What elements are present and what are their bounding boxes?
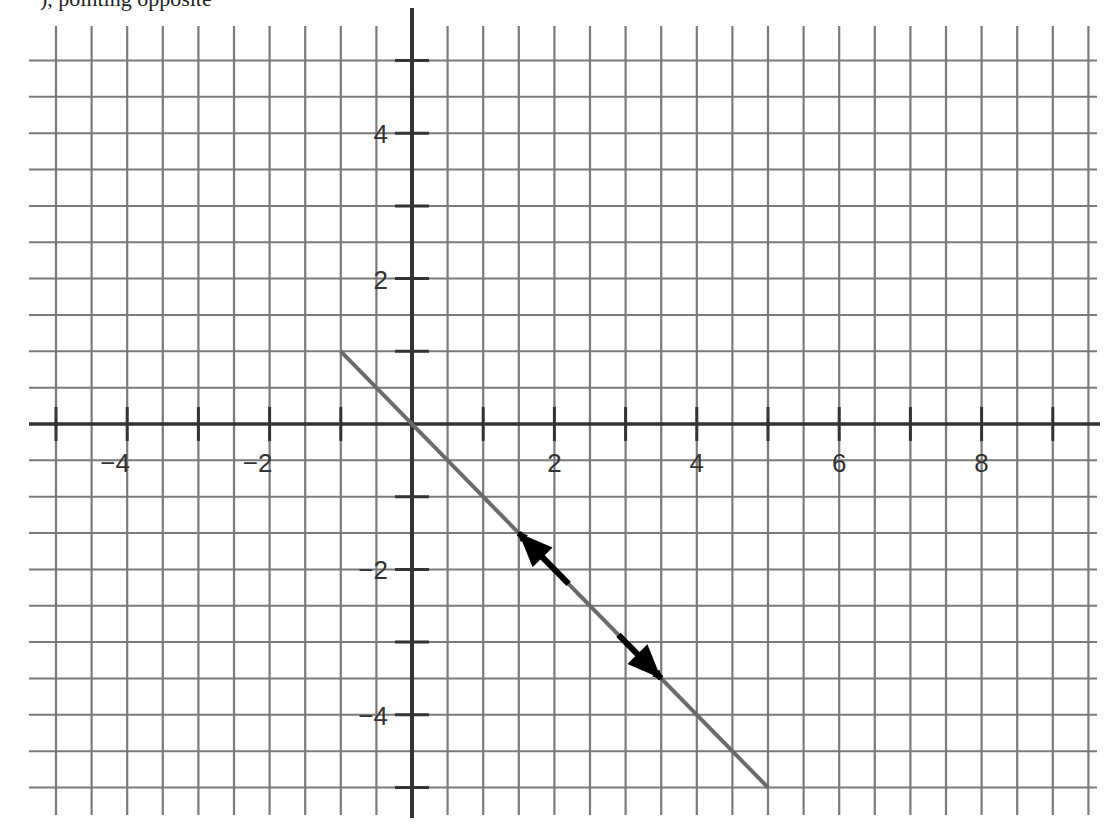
y-tick-label: −4 (358, 701, 388, 731)
x-tick-label: −4 (100, 448, 130, 478)
x-tick-label: 4 (690, 448, 704, 478)
y-tick-label: 2 (374, 265, 388, 295)
y-tick-label: 4 (374, 119, 388, 149)
x-tick-label: 8 (974, 448, 988, 478)
axes (29, 8, 1100, 818)
y-tick-label: −2 (358, 555, 388, 585)
coordinate-plane: −4−2246842−2−4 (0, 0, 1119, 828)
x-tick-label: −2 (243, 448, 273, 478)
x-tick-label: 2 (547, 448, 561, 478)
x-tick-label: 6 (832, 448, 846, 478)
grid-lines (29, 26, 1097, 815)
